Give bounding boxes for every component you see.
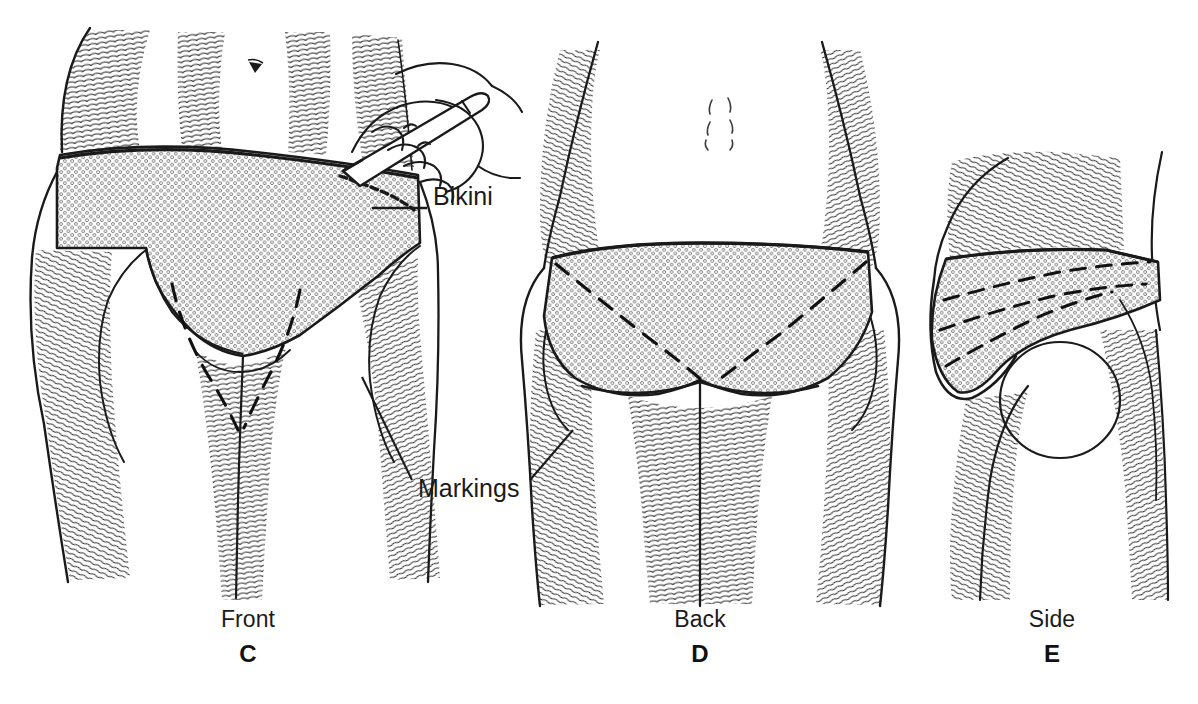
bikini-annotation-label: Bikini [433, 182, 493, 211]
panel-c-view-caption: Front [198, 606, 298, 633]
panel-d-letter: D [650, 640, 750, 668]
illustration-canvas: Bikini Markings Front C Back D Side E [0, 0, 1198, 704]
medical-illustration-svg [0, 0, 1198, 704]
panel-c-letter: C [198, 640, 298, 668]
markings-annotation-label: Markings [418, 474, 519, 503]
panel-d-view-caption: Back [650, 606, 750, 633]
panel-e-view-caption: Side [1002, 606, 1102, 633]
panel-e-letter: E [1002, 640, 1102, 668]
